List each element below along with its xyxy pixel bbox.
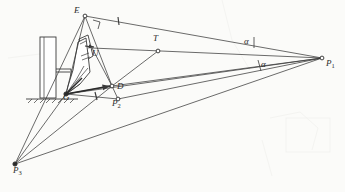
marker-T bbox=[156, 49, 160, 53]
line-G-P2 bbox=[66, 94, 118, 99]
point-label-E: E bbox=[74, 6, 80, 15]
figure-root: E U T D G P1 P2 P3 α α bbox=[0, 0, 345, 192]
marker-P1 bbox=[320, 56, 324, 60]
point-label-U: U bbox=[92, 49, 99, 58]
line-G-P1 bbox=[66, 58, 322, 94]
point-label-P2-sub: 2 bbox=[118, 102, 121, 109]
point-label-D: D bbox=[117, 82, 124, 91]
point-label-P3: P3 bbox=[13, 166, 22, 175]
point-label-T: T bbox=[153, 34, 158, 43]
point-label-P3-sub: 3 bbox=[19, 169, 22, 176]
line-U-P1 bbox=[92, 48, 322, 58]
frame-arm bbox=[56, 69, 71, 78]
line-E-P1 bbox=[85, 16, 322, 58]
angle-label-alpha-lower: α bbox=[261, 60, 266, 69]
point-label-P1-base: P bbox=[326, 58, 332, 68]
point-label-P1-sub: 1 bbox=[332, 62, 335, 69]
right-angle-marker bbox=[93, 20, 100, 29]
point-label-P1: P1 bbox=[326, 59, 335, 68]
construction-lines bbox=[15, 16, 322, 164]
point-label-G: G bbox=[63, 93, 70, 102]
figure-diagram bbox=[0, 0, 345, 192]
wheel-body bbox=[40, 37, 56, 98]
point-label-P3-base: P bbox=[13, 165, 19, 175]
marker-D bbox=[110, 84, 114, 88]
point-markers bbox=[13, 14, 324, 166]
point-label-P2: P2 bbox=[112, 99, 121, 108]
point-label-P2-base: P bbox=[112, 98, 118, 108]
line-P3-P1 bbox=[15, 58, 322, 164]
tick-e-p1 bbox=[118, 17, 119, 25]
angle-label-alpha-upper: α bbox=[244, 37, 249, 46]
marker-E bbox=[83, 14, 87, 18]
